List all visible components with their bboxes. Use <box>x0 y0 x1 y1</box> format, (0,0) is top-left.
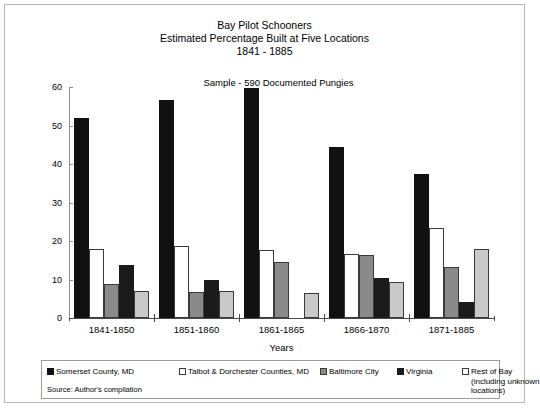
x-axis-end-tick <box>494 316 495 321</box>
x-axis-line <box>69 318 494 319</box>
legend-swatch-icon <box>179 368 186 375</box>
bar <box>104 284 119 318</box>
x-tick-label: 1866-1870 <box>324 324 409 335</box>
bar-group <box>154 87 239 318</box>
bar <box>244 88 259 318</box>
y-tick-label: 40 <box>23 160 69 169</box>
legend-item[interactable]: Virginia <box>397 367 463 377</box>
bar <box>474 249 489 318</box>
legend-swatch-icon <box>320 368 327 375</box>
bar <box>119 265 134 318</box>
chart-frame: Bay Pilot Schooners Estimated Percentage… <box>4 4 525 403</box>
bar-group-bars <box>239 87 324 318</box>
title-line-1: Bay Pilot Schooners <box>5 19 524 32</box>
title-line-2: Estimated Percentage Built at Five Locat… <box>5 32 524 45</box>
y-axis-line <box>69 87 70 318</box>
source-note: Source: Author's compilation <box>47 385 142 394</box>
y-tick-label: 60 <box>23 83 69 92</box>
x-tick-label: 1851-1860 <box>154 324 239 335</box>
bar <box>329 147 344 318</box>
bar <box>344 254 359 318</box>
legend-item[interactable]: Baltimore City <box>320 367 398 377</box>
legend-label: Somerset County, MD <box>56 367 134 377</box>
bar <box>89 249 104 318</box>
legend-item[interactable]: Somerset County, MD <box>47 367 177 377</box>
x-axis-label: Years <box>69 342 494 353</box>
legend-item[interactable]: Rest of Bay (including unknown locations… <box>462 367 540 396</box>
bar <box>259 250 274 318</box>
legend-swatch-icon <box>47 368 54 375</box>
legend-label: Talbot & Dorchester Counties, MD <box>188 367 309 377</box>
bar-group <box>324 87 409 318</box>
y-tick-label: 0 <box>23 314 69 323</box>
bar <box>74 118 89 318</box>
y-tick-label: 30 <box>23 198 69 207</box>
x-tick-label: 1841-1850 <box>69 324 154 335</box>
bar <box>204 280 219 318</box>
bar <box>174 246 189 318</box>
legend-swatch-icon <box>397 368 404 375</box>
bar-group-bars <box>69 87 154 318</box>
chart-title: Bay Pilot Schooners Estimated Percentage… <box>5 19 524 58</box>
x-tick-label: 1871-1885 <box>409 324 494 335</box>
title-line-3: 1841 - 1885 <box>5 45 524 58</box>
bar-group-bars <box>324 87 409 318</box>
bar <box>459 302 474 318</box>
bar <box>159 100 174 318</box>
bar <box>189 292 204 318</box>
bar <box>444 267 459 318</box>
legend-swatch-icon <box>462 368 469 375</box>
bar <box>429 228 444 318</box>
bar <box>374 278 389 318</box>
plot-area: 0102030405060 <box>69 87 494 318</box>
bar-group <box>69 87 154 318</box>
bar <box>304 293 319 318</box>
y-tick-label: 20 <box>23 237 69 246</box>
y-tick-label: 50 <box>23 121 69 130</box>
legend-label: Rest of Bay (including unknown locations… <box>471 367 540 396</box>
bar <box>274 262 289 318</box>
bar <box>134 291 149 318</box>
bar <box>414 174 429 318</box>
bar <box>389 282 404 318</box>
legend-label: Baltimore City <box>329 367 379 377</box>
x-tick-label: 1861-1865 <box>239 324 324 335</box>
y-tick-label: 10 <box>23 275 69 284</box>
legend-item[interactable]: Talbot & Dorchester Counties, MD <box>179 367 319 377</box>
bar-group <box>239 87 324 318</box>
chart-legend: Source: Author's compilation Somerset Co… <box>41 360 500 399</box>
bar-group-bars <box>409 87 494 318</box>
bar-group <box>409 87 494 318</box>
bar <box>219 291 234 318</box>
bar <box>359 255 374 318</box>
legend-label: Virginia <box>406 367 433 377</box>
bar-group-bars <box>154 87 239 318</box>
